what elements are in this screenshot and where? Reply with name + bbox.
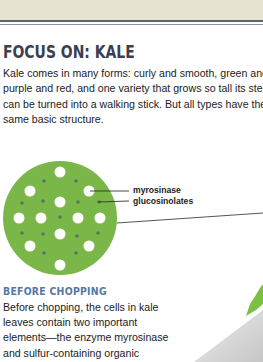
- header-rule-thin: [0, 24, 263, 25]
- body-line: and sulfur-containing organic: [3, 346, 203, 361]
- before-chopping-heading: BEFORE CHOPPING: [3, 285, 107, 299]
- kale-cell-diagram: [0, 160, 263, 280]
- section-title: FOCUS ON: KALE: [3, 42, 135, 62]
- top-color-band: [0, 0, 263, 20]
- intro-line: Kale comes in many forms: curly and smoo…: [3, 66, 263, 81]
- label-myrosinase: myrosinase: [133, 185, 181, 195]
- intro-line: same basic structure.: [3, 112, 263, 127]
- intro-line: can be turned into a walking stick. But …: [3, 97, 263, 112]
- body-line: leaves contain two important: [3, 315, 203, 330]
- intro-line: purple and red, and one variety that gro…: [3, 81, 263, 96]
- kale-leaf-image: [180, 280, 263, 362]
- header-rule: [0, 20, 263, 22]
- before-chopping-paragraph: Before chopping, the cells in kale leave…: [3, 300, 203, 361]
- label-glucosinolates: glucosinolates: [133, 196, 193, 206]
- body-line: elements—the enzyme myrosinase: [3, 330, 203, 345]
- leaf-leader: [117, 213, 263, 223]
- body-line: Before chopping, the cells in kale: [3, 300, 203, 315]
- intro-paragraph: Kale comes in many forms: curly and smoo…: [3, 66, 263, 128]
